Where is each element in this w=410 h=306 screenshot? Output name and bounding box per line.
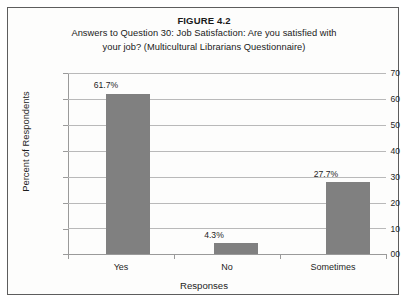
figure-frame: FIGURE 4.2 Answers to Question 30: Job S…: [7, 7, 399, 295]
bar-no[interactable]: [214, 243, 258, 254]
x-axis-title: Responses: [8, 280, 400, 291]
bar-yes[interactable]: [106, 94, 150, 254]
x-category-label-no: No: [172, 262, 282, 273]
bar-value-no: 4.3%: [174, 230, 254, 240]
plot-area: [68, 73, 386, 254]
x-tick-mark-1: [174, 254, 175, 259]
x-category-label-yes: Yes: [66, 262, 176, 273]
y-axis-title: Percent of Respondents: [20, 77, 31, 207]
bar-value-sometimes: 27.7%: [286, 169, 366, 179]
x-tick-mark-2: [280, 254, 281, 259]
plot-wrapper: Percent of Respondents 70 60 50 40 30 20…: [8, 8, 400, 296]
x-category-label-sometimes: Sometimes: [278, 262, 388, 273]
bar-sometimes[interactable]: [326, 182, 370, 254]
x-tick-mark-3: [386, 254, 387, 259]
x-axis-line: [68, 254, 387, 255]
bar-value-yes: 61.7%: [66, 80, 146, 90]
x-tick-mark-0: [68, 254, 69, 259]
gridline-70: [68, 73, 386, 74]
